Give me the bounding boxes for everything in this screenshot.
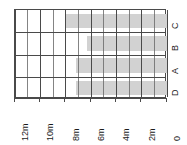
x-tick bbox=[39, 98, 40, 102]
gridline-major bbox=[65, 10, 66, 97]
x-tick bbox=[64, 98, 65, 102]
gridline-major bbox=[116, 10, 117, 97]
bar-b[interactable] bbox=[87, 36, 167, 51]
gridline-minor bbox=[53, 10, 54, 97]
gridline-minor bbox=[78, 10, 79, 97]
x-tick bbox=[90, 98, 91, 102]
gridline-minor bbox=[103, 10, 104, 97]
x-tick-label: 2m bbox=[146, 101, 158, 141]
gridline-major bbox=[40, 10, 41, 97]
x-tick-label: 4m bbox=[120, 101, 132, 141]
gridline-major bbox=[91, 10, 92, 97]
category-label-d: D bbox=[170, 62, 181, 96]
gridline-minor bbox=[27, 10, 28, 97]
x-tick-label: 0 bbox=[171, 101, 183, 141]
gridline-major bbox=[141, 10, 142, 97]
row-separator bbox=[15, 32, 165, 33]
gridline-major bbox=[15, 10, 16, 97]
gridline-minor bbox=[154, 10, 155, 97]
gridline-major bbox=[167, 10, 168, 97]
bar-chart: 12m10m8m6m4m2m0CBAD bbox=[0, 0, 187, 145]
x-tick-label: 12m bbox=[19, 101, 31, 141]
x-tick-label: 6m bbox=[95, 101, 107, 141]
gridline-minor bbox=[129, 10, 130, 97]
x-tick bbox=[14, 98, 15, 102]
plot-area bbox=[14, 9, 166, 98]
row-separator bbox=[15, 55, 165, 56]
x-tick-label: 8m bbox=[70, 101, 82, 141]
x-tick bbox=[166, 98, 167, 102]
x-tick bbox=[140, 98, 141, 102]
x-tick bbox=[115, 98, 116, 102]
row-separator bbox=[15, 77, 165, 78]
x-tick-label: 10m bbox=[44, 101, 56, 141]
